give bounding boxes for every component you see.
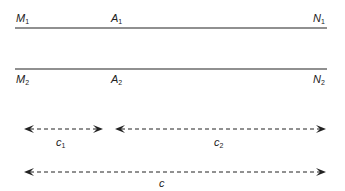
label-m2: M2: [16, 73, 29, 89]
label-n1: N1: [313, 12, 325, 28]
label-c1: c1: [56, 136, 65, 152]
diagram-canvas: M1 A1 N1 M2 A2 N2 c1 c2 c: [0, 0, 345, 191]
label-n2: N2: [313, 73, 325, 89]
diagram-svg: [0, 0, 345, 191]
label-a2: A2: [111, 73, 122, 89]
label-m1: M1: [16, 12, 29, 28]
label-c: c: [159, 177, 165, 189]
label-c2: c2: [214, 136, 223, 152]
label-a1: A1: [111, 12, 122, 28]
